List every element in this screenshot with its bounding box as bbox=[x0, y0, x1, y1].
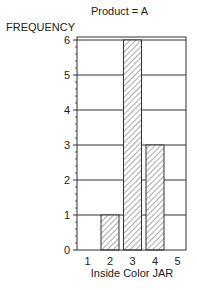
y-tick-label: 6 bbox=[64, 34, 70, 46]
y-tick-label: 3 bbox=[64, 139, 70, 151]
bar bbox=[146, 145, 164, 250]
x-tick-label: 5 bbox=[174, 255, 180, 267]
y-axis: 0123456 bbox=[64, 34, 77, 256]
y-tick-label: 2 bbox=[64, 174, 70, 186]
bar bbox=[124, 40, 142, 250]
x-axis: 12345 bbox=[84, 255, 180, 267]
y-tick-label: 1 bbox=[64, 209, 70, 221]
x-tick-label: 2 bbox=[107, 255, 113, 267]
x-tick-label: 1 bbox=[84, 255, 90, 267]
y-tick-label: 0 bbox=[64, 244, 70, 256]
plot-area: 0123456 12345 bbox=[0, 0, 197, 290]
x-tick-label: 4 bbox=[152, 255, 158, 267]
y-tick-label: 4 bbox=[64, 104, 70, 116]
bar bbox=[101, 215, 119, 250]
y-tick-label: 5 bbox=[64, 69, 70, 81]
x-tick-label: 3 bbox=[129, 255, 135, 267]
